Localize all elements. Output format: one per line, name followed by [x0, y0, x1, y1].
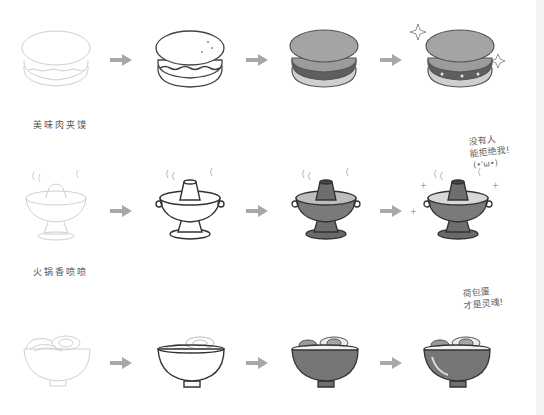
right-arrow-icon	[380, 357, 402, 369]
right-arrow-icon	[246, 54, 268, 66]
caption-hotpot: 火锅香喷喷	[33, 265, 88, 278]
meat-bun-final	[410, 22, 510, 92]
meat-bun-sketch	[18, 28, 96, 90]
noodle-bowl-lineart	[156, 333, 228, 391]
right-arrow-icon	[246, 357, 268, 369]
hotpot-final: +++	[408, 166, 508, 246]
right-arrow-icon	[380, 54, 402, 66]
noodle-bowl-sketch	[22, 333, 94, 391]
meat-bun-lineart	[152, 28, 230, 90]
noodle-annotation: 荷包蛋 才是灵魂!	[462, 284, 504, 312]
right-arrow-icon	[110, 54, 132, 66]
caption-meat-bun: 美味肉夹馍	[33, 118, 88, 131]
hotpot-annotation: 没有人 能拒绝我! (•'ω•)	[468, 132, 511, 172]
page-edge	[536, 0, 544, 415]
right-arrow-icon	[246, 205, 268, 217]
right-arrow-icon	[110, 205, 132, 217]
noodle-bowl-final	[422, 333, 494, 391]
svg-text:+: +	[420, 181, 427, 190]
right-arrow-icon	[110, 357, 132, 369]
sparkle-icon	[410, 24, 426, 40]
note-line-2: 才是灵魂!	[463, 296, 504, 312]
hotpot-lineart	[154, 168, 226, 244]
hotpot-sketch	[20, 170, 92, 242]
right-arrow-icon	[380, 205, 402, 217]
svg-text:+: +	[410, 207, 417, 216]
noodle-bowl-color	[290, 333, 362, 391]
sparkle-icon	[491, 54, 505, 68]
hotpot-color	[290, 168, 362, 244]
meat-bun-color	[286, 28, 364, 90]
svg-text:+: +	[492, 181, 499, 190]
